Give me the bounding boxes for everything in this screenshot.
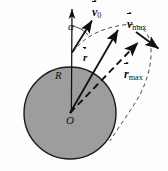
v0-symbol: v: [92, 5, 97, 19]
vmax-label: vmax: [127, 18, 146, 33]
vmax-symbol: v: [127, 17, 132, 31]
vmax-subscript: max: [132, 23, 146, 32]
r-label: r: [83, 52, 87, 63]
center-label: O: [66, 115, 74, 126]
r-symbol: r: [83, 51, 87, 63]
rmax-subscript: max: [129, 73, 143, 82]
rmax-symbol: r: [124, 67, 129, 81]
alpha-label: α: [68, 21, 74, 32]
physics-diagram: v0 vmax rmax r α R O: [0, 0, 168, 171]
v0-label: v0: [92, 6, 101, 21]
rmax-label: rmax: [124, 68, 143, 83]
radius-label: R: [55, 70, 62, 81]
v0-subscript: 0: [97, 11, 101, 20]
